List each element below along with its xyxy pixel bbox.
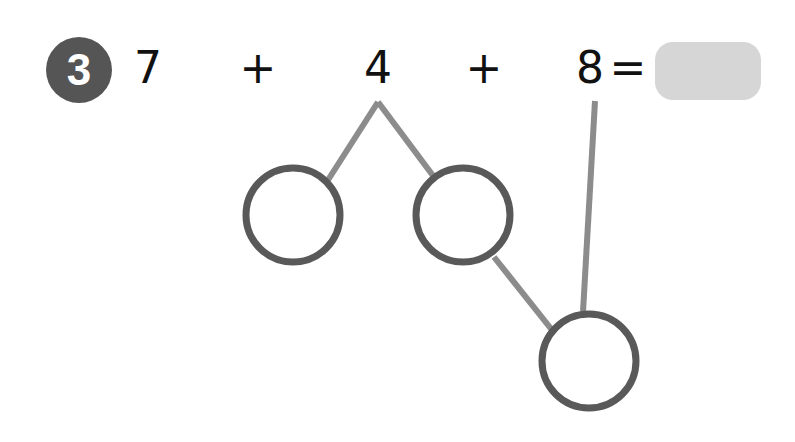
blank-circle-bottom[interactable] — [542, 314, 636, 408]
bond-line-from-eight — [583, 101, 595, 312]
bond-line-to-bottom — [494, 257, 552, 330]
bond-line-left — [328, 102, 378, 180]
bond-line-right — [378, 102, 434, 177]
blank-circle-middle[interactable] — [416, 168, 510, 262]
number-bond-diagram — [0, 0, 795, 442]
blank-circle-left[interactable] — [246, 168, 340, 262]
